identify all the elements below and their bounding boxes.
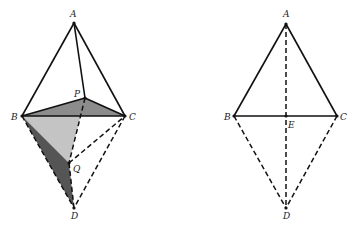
point-D: [72, 206, 75, 209]
point-E: [284, 114, 287, 117]
geometry-diagram: A P B C Q D A B E C D: [0, 0, 354, 227]
point-B: [232, 114, 235, 117]
edge-AB: [234, 24, 286, 116]
point-C: [123, 114, 126, 117]
label-P: P: [73, 89, 81, 99]
label-Q: Q: [73, 164, 81, 174]
left-figure: A P B C Q D: [10, 9, 136, 221]
point-Q: [67, 161, 70, 164]
label-C: C: [340, 112, 347, 122]
edge-AB: [22, 23, 74, 116]
edge-CD: [74, 116, 125, 208]
point-A: [284, 22, 287, 25]
point-B: [20, 114, 23, 117]
point-D: [284, 206, 287, 209]
label-A: A: [282, 9, 290, 19]
point-P: [83, 96, 86, 99]
label-A: A: [69, 9, 77, 19]
label-B: B: [10, 112, 18, 122]
label-B: B: [223, 112, 231, 122]
right-figure: A B E C D: [223, 9, 347, 221]
point-C: [335, 114, 338, 117]
edge-AC: [286, 24, 337, 116]
point-A: [72, 21, 75, 24]
label-D: D: [282, 211, 290, 221]
label-C: C: [129, 112, 136, 122]
label-D: D: [70, 211, 78, 221]
edge-BD: [234, 116, 286, 208]
label-E: E: [287, 120, 295, 130]
